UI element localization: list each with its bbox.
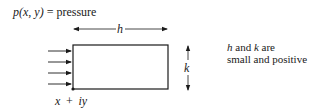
pressure-arrows xyxy=(48,51,71,84)
height-label: k xyxy=(184,62,189,74)
note-and: and xyxy=(233,41,254,53)
corner-point xyxy=(71,87,74,90)
width-label: h xyxy=(117,23,123,35)
note-are: are xyxy=(259,41,275,53)
note-line-1: h and k are xyxy=(227,41,275,53)
note-line-2: small and positive xyxy=(227,53,307,65)
corner-label: x + iy xyxy=(55,95,87,107)
region-rectangle xyxy=(73,45,168,89)
